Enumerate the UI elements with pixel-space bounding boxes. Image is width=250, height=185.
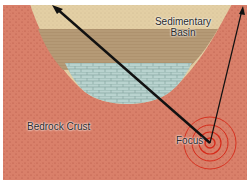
focus-label: Focus <box>176 135 203 146</box>
basin-label-line1: Sedimentary <box>148 16 218 27</box>
basin-label-line2: Basin <box>148 27 218 38</box>
sedimentary-basin-label: Sedimentary Basin <box>148 16 218 38</box>
bedrock-crust-label: Bedrock Crust <box>27 121 90 132</box>
seismic-basin-diagram: Sedimentary Basin Bedrock Crust Focus <box>0 0 250 185</box>
